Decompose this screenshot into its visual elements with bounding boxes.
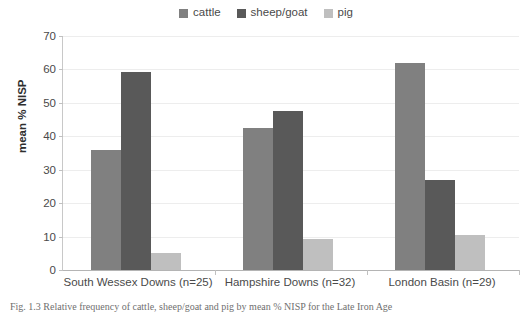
gridline <box>63 69 519 70</box>
bar <box>151 253 181 270</box>
y-axis-tick-label: 60 <box>43 63 56 75</box>
legend-label-pig: pig <box>338 7 353 19</box>
legend-item-sheep-goat: sheep/goat <box>237 7 308 19</box>
y-axis-tick <box>59 270 63 271</box>
y-axis-tick-label: 50 <box>43 97 56 109</box>
bar <box>425 180 455 270</box>
x-axis-category-tick <box>367 270 368 275</box>
bar <box>273 111 303 270</box>
y-axis-title: mean % NISP <box>16 80 28 154</box>
figure-caption: Fig. 1.3 Relative frequency of cattle, s… <box>10 301 525 312</box>
y-axis-tick <box>59 170 63 171</box>
bar <box>455 235 485 270</box>
y-axis-tick <box>59 36 63 37</box>
x-axis-category-label: South Wessex Downs (n=25) <box>62 276 214 294</box>
y-axis-tick <box>59 69 63 70</box>
bar <box>243 128 273 270</box>
x-axis-category-labels: South Wessex Downs (n=25)Hampshire Downs… <box>62 276 518 294</box>
chart-legend: cattle sheep/goat pig <box>0 4 532 22</box>
y-axis-tick-label: 40 <box>43 130 56 142</box>
legend-label-cattle: cattle <box>193 7 221 19</box>
bar <box>121 72 151 270</box>
plot-area: 010203040506070 <box>62 36 519 271</box>
x-axis-category-label: London Basin (n=29) <box>366 276 518 294</box>
gridline <box>63 36 519 37</box>
bar-chart-figure: cattle sheep/goat pig mean % NISP 010203… <box>0 0 532 312</box>
x-axis-category-tick <box>519 270 520 275</box>
y-axis-tick-label: 30 <box>43 164 56 176</box>
bar <box>395 63 425 270</box>
legend-item-cattle: cattle <box>179 7 221 19</box>
y-axis-tick-label: 20 <box>43 197 56 209</box>
legend-swatch-pig <box>324 9 333 18</box>
legend-item-pig: pig <box>324 7 353 19</box>
legend-label-sheep-goat: sheep/goat <box>251 7 308 19</box>
y-axis-tick-label: 0 <box>50 264 56 276</box>
y-axis-tick <box>59 237 63 238</box>
legend-swatch-cattle <box>179 9 188 18</box>
x-axis-category-tick <box>215 270 216 275</box>
y-axis-tick-label: 70 <box>43 30 56 42</box>
x-axis-category-label: Hampshire Downs (n=32) <box>214 276 366 294</box>
y-axis-tick-label: 10 <box>43 231 56 243</box>
y-axis-tick <box>59 203 63 204</box>
bar <box>303 239 333 270</box>
y-axis-tick <box>59 136 63 137</box>
legend-swatch-sheep-goat <box>237 9 246 18</box>
bar <box>91 150 121 270</box>
y-axis-tick <box>59 103 63 104</box>
